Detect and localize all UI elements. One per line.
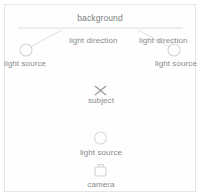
subject-label: subject (88, 96, 114, 106)
subject-x-icon (95, 86, 106, 95)
camera-label: camera (87, 180, 114, 190)
light-direction-right-label: light direction (139, 36, 188, 46)
background-label: background (77, 13, 122, 23)
light-direction-left-label: light direction (69, 36, 118, 46)
camera-icon (95, 165, 106, 177)
light-direction-left-line (30, 30, 62, 47)
light-source-left-icon (20, 44, 32, 56)
light-source-left-label: light source (4, 59, 46, 69)
light-source-right-label: light source (155, 59, 197, 69)
light-source-bottom-icon (95, 132, 107, 144)
lighting-setup-diagram: background light direction light directi… (0, 0, 201, 196)
light-source-bottom-label: light source (80, 148, 122, 158)
